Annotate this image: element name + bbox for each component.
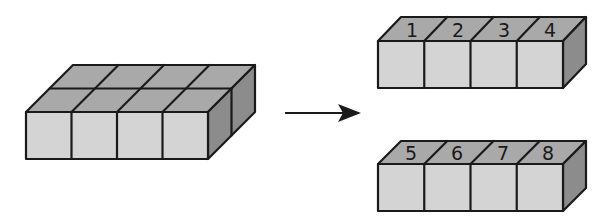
cube-split-diagram: 1 2 3 4 5 6 7 8 <box>0 0 604 224</box>
cube-row-1-4: 1 2 3 4 <box>378 17 586 88</box>
cube-label-2: 2 <box>452 19 464 41</box>
source-cube-block <box>26 65 255 159</box>
cube-row-5-8: 5 6 7 8 <box>378 141 586 211</box>
cube-label-3: 3 <box>498 19 510 41</box>
cube-label-6: 6 <box>451 142 463 164</box>
cube-label-7: 7 <box>497 142 509 164</box>
transform-arrow <box>285 104 361 122</box>
cube-label-8: 8 <box>542 142 554 164</box>
cube-label-4: 4 <box>544 19 556 41</box>
cube-label-5: 5 <box>405 142 417 164</box>
cube-label-1: 1 <box>406 19 418 41</box>
